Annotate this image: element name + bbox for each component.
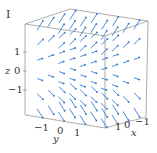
x-tick-neg1: −1: [135, 117, 150, 127]
arrow-head-icon: [138, 57, 140, 59]
vector-arrow: [80, 100, 86, 106]
arrow-head-icon: [85, 54, 87, 56]
arrow-head-icon: [84, 123, 86, 125]
arrow-head-icon: [106, 108, 108, 110]
vector-arrow: [134, 93, 140, 99]
arrow-head-icon: [53, 95, 55, 97]
arrow-head-icon: [85, 76, 87, 78]
arrow-head-icon: [85, 113, 87, 115]
arrow-head-icon: [52, 54, 54, 56]
y-axis-label: y: [53, 134, 59, 144]
arrow-head-icon: [128, 41, 130, 43]
vector-arrow: [80, 17, 86, 26]
arrow-head-icon: [74, 98, 76, 100]
y-tick-neg1: −1: [34, 123, 49, 133]
vector-arrow: [101, 49, 107, 55]
vector-arrow: [91, 112, 97, 121]
arrow-head-icon: [128, 23, 130, 25]
arrow-head-icon: [53, 17, 55, 19]
arrow-head-icon: [127, 82, 129, 84]
x-tick-0: 0: [124, 120, 130, 130]
vector-arrow: [91, 97, 97, 103]
arrow-head-icon: [85, 45, 87, 47]
vector-arrow: [48, 105, 54, 114]
arrow-head-icon: [127, 60, 129, 62]
arrow-head-icon: [85, 35, 87, 37]
vector-arrow: [69, 21, 75, 30]
z-tick-0: 0: [14, 66, 20, 76]
vector-arrow: [113, 90, 119, 96]
vector-arrow: [58, 97, 64, 103]
arrow-head-icon: [53, 113, 55, 115]
arrow-head-icon: [63, 23, 65, 25]
vector-arrow: [48, 18, 54, 27]
arrow-head-icon: [96, 13, 98, 15]
vector-arrow: [112, 46, 118, 52]
arrow-head-icon: [106, 30, 108, 32]
arrow-head-icon: [106, 116, 108, 118]
arrow-head-icon: [85, 16, 87, 18]
arrow-head-icon: [96, 101, 98, 103]
arrow-head-icon: [64, 91, 66, 93]
vector-arrow: [80, 36, 86, 42]
arrow-head-icon: [117, 75, 119, 77]
arrow-head-icon: [75, 88, 77, 90]
vector-arrow: [102, 39, 108, 45]
arrow-head-icon: [128, 101, 130, 103]
arrow-head-icon: [63, 42, 65, 44]
arrow-head-icon: [74, 79, 76, 81]
vector-arrow: [37, 21, 43, 30]
arrow-head-icon: [117, 94, 119, 96]
arrow-head-icon: [117, 35, 119, 37]
arrow-head-icon: [42, 39, 44, 41]
arrow-head-icon: [95, 120, 97, 122]
vector-arrow: [102, 21, 108, 30]
arrow-head-icon: [106, 126, 108, 128]
arrow-head-icon: [64, 32, 66, 34]
arrow-head-icon: [41, 79, 43, 81]
arrow-head-icon: [84, 64, 86, 66]
arrow-head-icon: [63, 83, 65, 85]
arrow-head-icon: [52, 76, 54, 78]
vector-arrow: [59, 87, 65, 93]
vector-arrow: [37, 109, 43, 118]
arrow-head-icon: [74, 116, 76, 118]
arrow-head-icon: [106, 38, 108, 40]
arrow-head-icon: [74, 47, 76, 49]
arrow-head-icon: [84, 86, 86, 88]
arrow-head-icon: [85, 95, 87, 97]
arrow-head-icon: [74, 20, 76, 22]
arrow-head-icon: [138, 79, 140, 81]
arrow-head-icon: [42, 20, 44, 22]
vector-arrow: [80, 46, 86, 52]
vector-arrow: [69, 39, 75, 45]
arrow-head-icon: [84, 27, 86, 29]
arrow-head-icon: [63, 51, 65, 53]
vector-arrow: [91, 24, 97, 33]
arrow-head-icon: [41, 57, 43, 59]
vector-arrow: [123, 42, 129, 48]
vector-arrow: [91, 14, 97, 23]
arrow-head-icon: [116, 64, 118, 66]
arrow-head-icon: [95, 60, 97, 62]
arrow-head-icon: [96, 91, 98, 93]
vector-arrow: [113, 17, 119, 26]
arrow-head-icon: [96, 110, 98, 112]
arrow-head-icon: [139, 19, 141, 21]
arrow-head-icon: [75, 28, 77, 30]
vector-arrow: [113, 36, 119, 42]
arrow-head-icon: [117, 53, 119, 55]
arrow-head-icon: [74, 57, 76, 59]
x-tick-1: 1: [115, 122, 121, 132]
arrow-head-icon: [117, 16, 119, 18]
vector-arrow: [91, 87, 97, 93]
arrow-head-icon: [105, 89, 107, 91]
arrow-head-icon: [106, 48, 108, 50]
vector-arrow: [134, 20, 140, 29]
vector-arrow: [70, 29, 76, 35]
vector-arrow: [102, 93, 108, 99]
arrow-head-icon: [106, 57, 108, 59]
arrow-head-icon: [85, 105, 87, 107]
x-axis-label: x: [131, 128, 137, 138]
arrow-head-icon: [106, 79, 108, 81]
